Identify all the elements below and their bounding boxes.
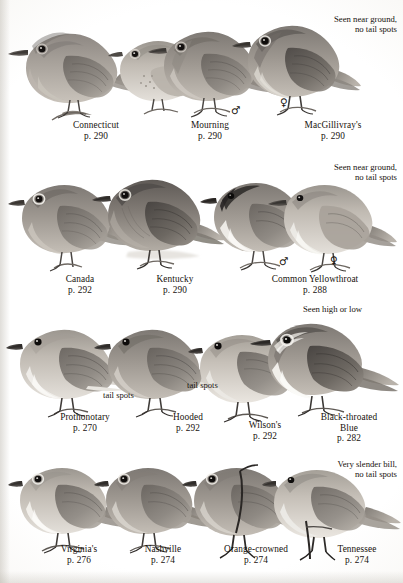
plate-row-2: Seen near ground, no tail spots ♂ ♀ Cana… <box>0 150 403 300</box>
caption-kentucky: Kentucky p. 290 <box>125 274 225 295</box>
female-symbol-row-2: ♀ <box>330 255 338 266</box>
caption-common-yellowthroat-page: p. 288 <box>240 285 390 296</box>
caption-canada: Canada p. 292 <box>30 274 130 295</box>
note-row-1-line-1: Seen near ground, <box>279 14 397 24</box>
caption-macgillivrays: MacGillivray's p. 290 <box>278 120 388 141</box>
caption-tennessee: Tennessee p. 274 <box>312 544 402 565</box>
note-row-1: Seen near ground, no tail spots <box>279 14 397 35</box>
caption-connecticut-page: p. 290 <box>42 131 150 142</box>
caption-canada-name: Canada <box>30 274 130 285</box>
caption-connecticut-name: Connecticut <box>42 120 150 131</box>
caption-black-throated-blue-name: Black-throated <box>300 412 398 423</box>
note-row-2-line-2: no tail spots <box>279 172 397 182</box>
caption-common-yellowthroat: Common Yellowthroat p. 288 <box>240 274 390 295</box>
caption-kentucky-page: p. 290 <box>125 285 225 296</box>
plate-row-4: Very slender bill, no tail spots Virgini… <box>0 445 403 583</box>
caption-macgillivrays-page: p. 290 <box>278 131 388 142</box>
note-row-2: Seen near ground, no tail spots <box>279 162 397 183</box>
field-guide-plate: Seen near ground, no tail spots ♂ ♀ Conn… <box>0 0 403 583</box>
tail-spots-label-right: tail spots <box>187 380 218 390</box>
caption-kentucky-name: Kentucky <box>125 274 225 285</box>
plate-row-3: Seen high or low tail spots tail spots P… <box>0 300 403 445</box>
caption-connecticut: Connecticut p. 290 <box>42 120 150 141</box>
caption-tennessee-name: Tennessee <box>312 544 402 555</box>
caption-common-yellowthroat-name: Common Yellowthroat <box>240 274 390 285</box>
caption-wilsons-page: p. 292 <box>222 431 308 442</box>
bird-illustration-black-throated-blue <box>250 308 400 426</box>
note-row-3: Seen high or low <box>303 304 403 314</box>
caption-mourning: Mourning p. 290 <box>162 120 258 141</box>
male-symbol-row-2: ♂ <box>279 256 288 267</box>
caption-macgillivrays-name: MacGillivray's <box>278 120 388 131</box>
plate-row-1: Seen near ground, no tail spots ♂ ♀ Conn… <box>0 0 403 150</box>
caption-wilsons: Wilson's p. 292 <box>222 420 308 441</box>
caption-hooded-name: Hooded <box>141 412 235 423</box>
caption-black-throated-blue-page: p. 282 <box>300 433 398 444</box>
female-symbol-row-1: ♀ <box>280 97 288 108</box>
caption-black-throated-blue-name2: Blue <box>300 423 398 434</box>
caption-wilsons-name: Wilson's <box>222 420 308 431</box>
caption-orange-crowned: Orange-crowned p. 274 <box>198 544 314 565</box>
note-row-3-line-1: Seen high or low <box>303 304 403 314</box>
caption-black-throated-blue: Black-throated Blue p. 282 <box>300 412 398 444</box>
caption-mourning-name: Mourning <box>162 120 258 131</box>
note-row-2-line-1: Seen near ground, <box>279 162 397 172</box>
note-row-1-line-2: no tail spots <box>279 24 397 34</box>
note-row-4-line-1: Very slender bill, <box>279 459 397 469</box>
caption-prothonotary: Prothonotary p. 270 <box>30 412 140 433</box>
caption-canada-page: p. 292 <box>30 285 130 296</box>
caption-prothonotary-name: Prothonotary <box>30 412 140 423</box>
caption-prothonotary-page: p. 270 <box>30 423 140 434</box>
note-row-4-line-2: no tail spots <box>279 469 397 479</box>
caption-hooded: Hooded p. 292 <box>141 412 235 433</box>
caption-orange-crowned-page: p. 274 <box>198 555 314 566</box>
caption-tennessee-page: p. 274 <box>312 555 402 566</box>
caption-hooded-page: p. 292 <box>141 423 235 434</box>
caption-mourning-page: p. 290 <box>162 131 258 142</box>
caption-orange-crowned-name: Orange-crowned <box>198 544 314 555</box>
note-row-4: Very slender bill, no tail spots <box>279 459 397 480</box>
male-symbol-row-1: ♂ <box>231 105 240 116</box>
tail-spots-label-left: tail spots <box>103 390 134 400</box>
